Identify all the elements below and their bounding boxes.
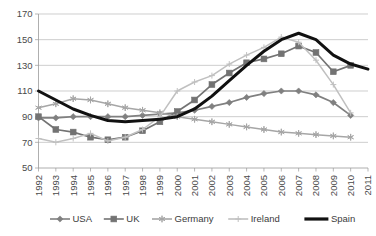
legend-label: UK <box>126 213 140 224</box>
marker-square <box>278 51 284 57</box>
marker-diamond <box>278 88 284 94</box>
legend-item-uk[interactable]: UK <box>104 213 140 224</box>
legend-item-usa[interactable]: USA <box>50 213 93 224</box>
legend-item-ireland[interactable]: Ireland <box>228 213 280 224</box>
x-tick-label: 2000 <box>172 175 183 196</box>
y-tick-label: 130 <box>17 60 33 71</box>
x-tick-label: 1996 <box>102 175 113 196</box>
marker-square <box>330 69 336 75</box>
legend-item-spain[interactable]: Spain <box>304 213 355 224</box>
chart-legend: USAUKGermanyIrelandSpain <box>50 213 355 224</box>
x-tick-label: 2008 <box>310 175 321 196</box>
series-ireland <box>36 34 354 145</box>
x-tick-label: 2009 <box>328 175 339 196</box>
y-tick-label: 150 <box>17 34 33 45</box>
x-axis-tick-labels: 1992199319941995199619971998199920002001… <box>33 175 374 196</box>
y-tick-label: 90 <box>22 111 33 122</box>
marker-diamond <box>313 92 319 98</box>
x-tick-label: 2011 <box>362 175 373 195</box>
marker-diamond <box>209 103 215 109</box>
series-line <box>39 37 351 142</box>
chart-container: 507090110130150170 199219931994199519961… <box>0 0 376 236</box>
legend-label: Ireland <box>251 213 280 224</box>
marker-diamond <box>122 114 128 120</box>
x-tick-label: 1998 <box>137 175 148 196</box>
x-tick-label: 2005 <box>258 175 269 196</box>
marker-diamond <box>296 88 302 94</box>
x-tick-label: 1994 <box>68 175 79 196</box>
line-chart: 507090110130150170 199219931994199519961… <box>0 0 376 236</box>
marker-diamond <box>70 114 76 120</box>
marker-square <box>111 216 117 222</box>
marker-diamond <box>57 216 63 222</box>
x-tick-label: 1995 <box>85 175 96 196</box>
x-tick-label: 2003 <box>224 175 235 196</box>
x-tick-label: 2007 <box>293 175 304 196</box>
x-tick-label: 2002 <box>206 175 217 196</box>
legend-label: Germany <box>175 213 214 224</box>
marker-square <box>36 114 42 120</box>
y-tick-label: 110 <box>17 85 32 96</box>
y-tick-label: 170 <box>17 8 33 19</box>
x-tick-label: 1997 <box>120 175 131 196</box>
x-tick-label: 2006 <box>276 175 287 196</box>
marker-diamond <box>53 115 59 121</box>
marker-diamond <box>244 94 250 100</box>
y-tick-label: 70 <box>22 137 33 148</box>
x-tick-label: 2001 <box>189 175 200 196</box>
marker-square <box>313 50 319 56</box>
legend-item-germany[interactable]: Germany <box>152 213 214 224</box>
data-series-layer <box>35 33 368 145</box>
y-axis-tick-labels: 507090110130150170 <box>17 8 33 173</box>
x-tick-label: 2004 <box>241 175 252 196</box>
marker-diamond <box>226 99 232 105</box>
legend-label: USA <box>73 213 93 224</box>
y-tick-label: 50 <box>22 162 33 173</box>
marker-square <box>192 97 198 103</box>
x-tick-label: 1999 <box>154 175 165 196</box>
marker-square <box>70 129 76 135</box>
x-tick-label: 1993 <box>50 175 61 196</box>
legend-label: Spain <box>331 213 355 224</box>
marker-square <box>261 56 267 62</box>
marker-diamond <box>261 90 267 96</box>
marker-square <box>226 70 232 76</box>
marker-square <box>209 82 215 88</box>
x-tick-label: 2010 <box>345 175 356 196</box>
marker-square <box>53 127 59 133</box>
x-tick-label: 1992 <box>33 175 44 196</box>
